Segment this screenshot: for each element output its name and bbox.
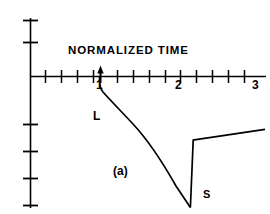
liquid-label: L [93,110,100,122]
plot-canvas [0,0,270,214]
solid-label: S [203,189,210,200]
cooling-curve [99,76,265,208]
chart-title: NORMALIZED TIME [68,45,189,57]
x-tick-label-3: 3 [252,79,259,91]
x-tick-label-1: 1 [96,79,103,91]
panel-label: (a) [113,165,128,177]
y-axis [23,18,38,208]
solid-plateau [193,129,265,140]
figure-panel: NORMALIZED TIME 1 2 3 L S (a) [0,0,270,214]
recalescence-jump [190,140,193,207]
x-tick-label-2: 2 [175,79,182,91]
liquid-branch [99,76,190,208]
x-axis [30,70,266,83]
